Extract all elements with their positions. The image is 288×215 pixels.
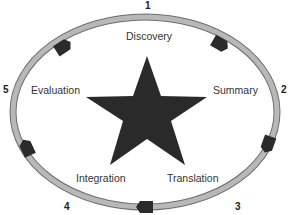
stage-number-3: 3 xyxy=(235,201,241,212)
stage-label-integration: Integration xyxy=(76,172,126,184)
arrow-marker-4 xyxy=(136,201,153,213)
stage-label-discovery: Discovery xyxy=(126,30,172,42)
stage-number-5: 5 xyxy=(3,84,9,95)
stage-number-4: 4 xyxy=(64,201,70,212)
stage-label-evaluation: Evaluation xyxy=(31,84,80,96)
star-icon xyxy=(86,56,207,165)
stage-number-1: 1 xyxy=(145,0,151,11)
stage-label-summary: Summary xyxy=(213,84,258,96)
stage-label-translation: Translation xyxy=(167,172,219,184)
stage-number-2: 2 xyxy=(281,84,287,95)
